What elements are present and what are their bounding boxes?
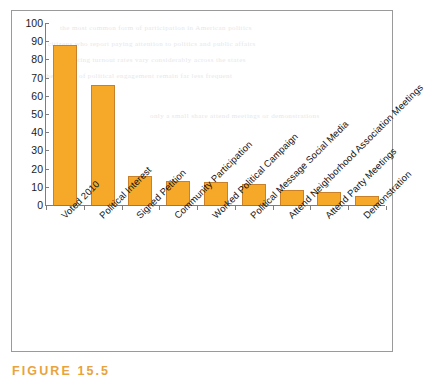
x-tick-mark	[273, 206, 274, 210]
y-tick-label: 10	[17, 182, 43, 193]
y-tick-mark	[45, 41, 49, 42]
figure-frame: 1009080706050403020100 Voted 2010Politic…	[11, 10, 393, 352]
y-tick-label-wrap: 70	[12, 78, 43, 79]
y-tick-label: 70	[17, 73, 43, 84]
y-tick-mark	[45, 187, 49, 188]
y-tick-label: 100	[17, 18, 43, 29]
y-tick-label-wrap: 50	[12, 114, 43, 115]
x-tick-mark	[197, 206, 198, 210]
x-tick-mark	[122, 206, 123, 210]
y-tick-label: 90	[17, 36, 43, 47]
y-tick-mark	[45, 114, 49, 115]
y-tick-mark	[45, 23, 49, 24]
x-tick-mark	[159, 206, 160, 210]
y-tick-mark	[45, 78, 49, 79]
y-tick-mark	[45, 96, 49, 97]
x-tick-mark	[348, 206, 349, 210]
bar-chart: 1009080706050403020100 Voted 2010Politic…	[12, 11, 394, 353]
y-tick-label: 30	[17, 145, 43, 156]
figure-caption: FIGURE 15.5	[12, 364, 110, 378]
bar	[53, 45, 77, 205]
y-tick-mark	[45, 150, 49, 151]
x-tick-mark	[46, 206, 47, 210]
y-tick-label: 80	[17, 54, 43, 65]
x-tick-mark	[386, 206, 387, 210]
x-tick-mark	[235, 206, 236, 210]
y-tick-label-wrap: 60	[12, 96, 43, 97]
y-tick-label-wrap: 10	[12, 187, 43, 188]
y-tick-label-wrap: 20	[12, 169, 43, 170]
y-tick-mark	[45, 169, 49, 170]
y-tick-label-wrap: 0	[12, 205, 43, 206]
y-tick-label-wrap: 40	[12, 132, 43, 133]
y-tick-label: 40	[17, 127, 43, 138]
y-tick-label-wrap: 90	[12, 41, 43, 42]
y-tick-label-wrap: 100	[12, 23, 43, 24]
x-axis-label: Attend Party Meetings	[323, 145, 398, 220]
y-tick-label: 0	[17, 200, 43, 211]
x-tick-mark	[84, 206, 85, 210]
y-tick-label-wrap: 30	[12, 150, 43, 151]
y-tick-mark	[45, 132, 49, 133]
y-tick-label: 50	[17, 109, 43, 120]
y-tick-label-wrap: 80	[12, 59, 43, 60]
y-tick-label: 60	[17, 91, 43, 102]
y-tick-mark	[45, 59, 49, 60]
x-tick-mark	[310, 206, 311, 210]
y-tick-label: 20	[17, 164, 43, 175]
